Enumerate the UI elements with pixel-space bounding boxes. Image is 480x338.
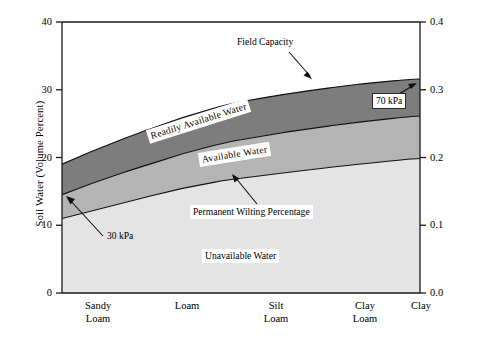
y-tick-label-right-02: 0.2 <box>430 152 460 163</box>
ticks-left <box>56 22 62 293</box>
x-category-clay: Clay <box>378 300 464 313</box>
y-tick-label-left-0: 0 <box>26 287 52 298</box>
y-tick-label-right-03: 0.3 <box>430 84 460 95</box>
x-category-line-2: Loam <box>322 313 408 326</box>
x-category-loam: Loam <box>144 300 230 313</box>
y-tick-label-left-10: 10 <box>26 219 52 230</box>
y-tick-label-right-00: 0.0 <box>430 287 460 298</box>
x-category-line-2: Loam <box>55 313 141 326</box>
annotation-unavailable-water: Unavailable Water <box>202 249 279 263</box>
soil-water-area-chart <box>0 0 480 338</box>
y-tick-label-left-20: 20 <box>26 152 52 163</box>
x-category-line-1: Sandy <box>55 300 141 313</box>
x-category-sandy-loam: Sandy Loam <box>55 300 141 325</box>
annotation-field-capacity: Field Capacity <box>237 36 293 48</box>
y-tick-label-left-40: 40 <box>26 16 52 27</box>
x-category-line-2: Loam <box>233 313 319 326</box>
annotation-30-kpa: 30 kPa <box>107 230 133 242</box>
x-category-line-1: Loam <box>144 300 230 313</box>
x-category-silt-loam: Silt Loam <box>233 300 319 325</box>
annotation-permanent-wilting-percentage: Permanent Wilting Percentage <box>190 205 313 219</box>
x-category-line-1: Silt <box>233 300 319 313</box>
y-tick-label-left-30: 30 <box>26 84 52 95</box>
annotation-70-kpa: 70 kPa <box>372 93 406 109</box>
ticks-right <box>420 22 426 293</box>
y-tick-label-right-01: 0.1 <box>430 219 460 230</box>
chart-canvas: Soil Water (Volume Percent) 40 30 20 10 … <box>0 0 480 338</box>
y-tick-label-right-04: 0.4 <box>430 16 460 27</box>
x-category-line-1: Clay <box>378 300 464 313</box>
